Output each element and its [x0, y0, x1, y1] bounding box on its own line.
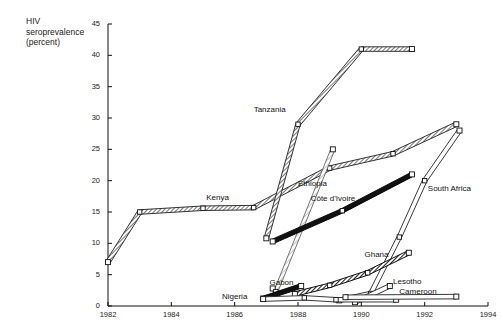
- x-tick-label: 1984: [151, 310, 191, 319]
- plot-area: [0, 0, 503, 335]
- x-tick-label: 1992: [405, 310, 445, 319]
- y-tick-label: 30: [78, 113, 100, 122]
- series-label-ethiopia: Ethiopia: [298, 179, 327, 188]
- series-label-lesotho: Lesotho: [393, 277, 421, 286]
- series-label-kenya: Kenya: [206, 193, 229, 202]
- series-label-tanzania: Tanzania: [254, 105, 286, 114]
- y-tick-label: 35: [78, 82, 100, 91]
- series-kenya: [106, 122, 459, 265]
- y-tick-label: 20: [78, 176, 100, 185]
- y-tick-label: 15: [78, 207, 100, 216]
- y-tick-label: 10: [78, 238, 100, 247]
- series-lines: [106, 47, 463, 305]
- series-label-gabon: Gabon: [270, 278, 294, 287]
- series-label-c-te-d-ivoire: Côte d'Ivoire: [311, 194, 356, 203]
- y-tick-label: 0: [78, 301, 100, 310]
- series-label-nigeria: Nigeria: [222, 292, 247, 301]
- x-tick-label: 1988: [278, 310, 318, 319]
- series-label-south-africa: South Africa: [428, 184, 471, 193]
- x-tick-label: 1994: [468, 310, 503, 319]
- series-ghana: [292, 250, 411, 296]
- series-label-ghana: Ghana: [365, 250, 389, 259]
- x-tick-label: 1982: [88, 310, 128, 319]
- axes: [108, 24, 488, 306]
- y-tick-label: 40: [78, 50, 100, 59]
- y-tick-label: 25: [78, 144, 100, 153]
- x-tick-label: 1986: [215, 310, 255, 319]
- x-tick-label: 1990: [341, 310, 381, 319]
- y-tick-label: 5: [78, 270, 100, 279]
- hiv-seroprevalence-chart: HIV seroprevalence (percent) 05101520253…: [0, 0, 503, 335]
- series-label-cameroon: Cameroon: [399, 287, 436, 296]
- y-tick-label: 45: [78, 19, 100, 28]
- series-c-te-d-ivoire: [270, 172, 414, 244]
